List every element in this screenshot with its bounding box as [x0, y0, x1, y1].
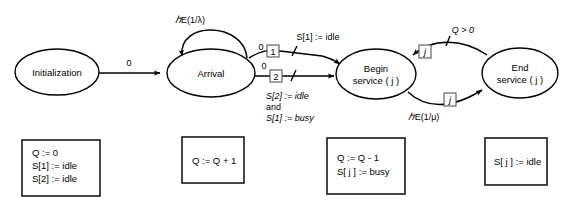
edge-priority-arrival-begin-2: 0 — [261, 61, 266, 71]
state-box-initialization-line-2: S[1] := idle — [32, 160, 77, 171]
edge-end-to-begin: j Q > 0 — [413, 25, 487, 58]
state-box-end-service: S[ j ] := idle — [485, 138, 547, 185]
node-end-service[interactable]: End service ( j ) — [482, 48, 558, 98]
edge-tick-1 — [292, 46, 297, 56]
state-box-begin-service: Q := Q - 1 S[ j ] := busy — [327, 138, 405, 194]
edge-init-to-arrival: 0 — [99, 58, 160, 73]
edge-delay-begin-end: E(1/μ) — [415, 112, 440, 122]
edge-priority-arrival-begin-1: 0 — [258, 42, 263, 52]
edge-condition-arrival-begin-2-line2: and — [266, 102, 281, 112]
edge-marker-label-1: 1 — [270, 47, 275, 57]
edge-condition-arrival-begin-1: S[1] := idle — [297, 32, 340, 42]
state-box-begin-service-line-2: S[ j ] := busy — [337, 166, 390, 177]
node-end-service-label-line2: service ( j ) — [497, 74, 543, 85]
state-box-end-service-line-1: S[ j ] := idle — [494, 156, 541, 167]
node-initialization-label: Initialization — [32, 67, 82, 78]
node-initialization[interactable]: Initialization — [15, 49, 99, 95]
event-graph-diagram: 0 ℎ E(1/λ) 0 1 S[1] := idle 0 2 — [0, 0, 574, 210]
state-box-initialization: Q := 0 S[1] := idle S[2] := idle — [22, 140, 100, 196]
node-begin-service-shape[interactable] — [336, 49, 416, 99]
edge-tick-j-upper — [446, 36, 450, 46]
edge-marker-label-2: 2 — [273, 72, 278, 82]
node-arrival-label: Arrival — [198, 68, 225, 79]
state-box-arrival: Q := Q + 1 — [182, 137, 244, 183]
state-box-arrival-line-1: Q := Q + 1 — [192, 155, 236, 166]
edge-condition-arrival-begin-2-line3: S[1] := busy — [266, 113, 314, 123]
state-box-initialization-line-3: S[2] := idle — [32, 173, 77, 184]
diagram-canvas: 0 ℎ E(1/λ) 0 1 S[1] := idle 0 2 — [0, 0, 574, 210]
edge-arrival-to-begin-server2: 0 2 S[2] := idle and S[1] := busy — [254, 61, 334, 123]
edge-condition-arrival-begin-2-line1: S[2] := idle — [266, 91, 309, 101]
state-box-begin-service-line-1: Q := Q - 1 — [337, 152, 379, 163]
edge-condition-end-begin: Q > 0 — [452, 25, 474, 35]
edge-begin-to-end: j ℎ E(1/μ) — [408, 90, 482, 122]
node-begin-service[interactable]: Begin service ( j ) — [336, 49, 416, 99]
state-box-initialization-line-1: Q := 0 — [32, 147, 58, 158]
node-begin-service-label-line2: service ( j ) — [353, 75, 399, 86]
node-begin-service-label-line1: Begin — [364, 63, 388, 74]
edge-priority-init-arrival: 0 — [126, 58, 131, 68]
edge-arrival-to-begin-server1: 0 1 S[1] := idle — [249, 32, 340, 64]
node-end-service-label-line1: End — [512, 62, 529, 73]
node-arrival[interactable]: Arrival — [167, 49, 255, 97]
node-end-service-shape[interactable] — [482, 48, 558, 98]
edge-delay-arrival-self-label: E(1/λ) — [181, 15, 205, 25]
